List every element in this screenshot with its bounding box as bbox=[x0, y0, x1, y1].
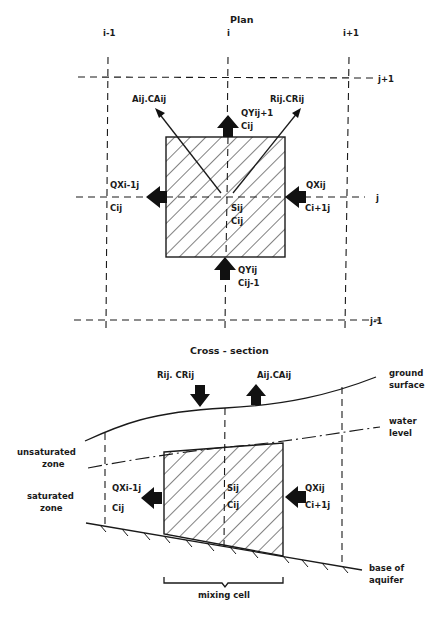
cross-arrow-left-out-icon bbox=[141, 487, 162, 509]
cross-section-title: Cross - section bbox=[190, 345, 269, 356]
ground-surface-label-1: ground bbox=[389, 368, 423, 378]
grid-column-i-minus-1 bbox=[106, 57, 108, 328]
plan-evap-label: Aij.CAij bbox=[132, 94, 166, 104]
mixing-cell-label: mixing cell bbox=[198, 590, 250, 600]
arrow-left-out-icon bbox=[146, 186, 167, 208]
recharge-down-arrow-icon bbox=[190, 385, 210, 407]
mixing-cell-bracket bbox=[164, 577, 283, 587]
cross-arrow-left-in-icon bbox=[285, 486, 306, 508]
row-label-j-minus-1: j-1 bbox=[369, 316, 382, 326]
plan-qx-out-label: QXi-1j bbox=[110, 180, 139, 190]
saturated-zone-label-1: saturated bbox=[27, 491, 74, 501]
cross-section-view: Cross - section Rij. CRij bbox=[17, 345, 425, 600]
water-level-label-2: level bbox=[389, 428, 412, 438]
evaporation-arrowhead-icon bbox=[155, 108, 165, 118]
ground-surface-label-2: surface bbox=[389, 380, 425, 390]
evaporation-up-arrow-icon bbox=[246, 384, 266, 405]
column-label-i: i bbox=[227, 28, 230, 38]
plan-qx-in-label: QXij bbox=[306, 180, 326, 190]
recharge-arrowhead-icon bbox=[292, 108, 301, 118]
unsaturated-zone-label-2: zone bbox=[42, 459, 65, 469]
arrow-up-out-icon bbox=[217, 115, 239, 137]
cross-qx-in-label: QXij bbox=[305, 483, 325, 493]
water-level-label-1: water bbox=[389, 416, 417, 426]
aquifer-base-label-2: aquifer bbox=[369, 575, 404, 585]
row-label-j-plus-1: j+1 bbox=[377, 74, 394, 84]
plan-qy-out-label: QYij+1 bbox=[241, 108, 273, 118]
cross-source-conc: Cij bbox=[227, 500, 239, 510]
plan-view: Plan i-1 i i+1 j+1 j j-1 Aij.CAij Rij.CR… bbox=[74, 14, 394, 328]
arrow-left-in-icon bbox=[285, 186, 306, 208]
arrow-up-in-icon bbox=[214, 257, 236, 280]
plan-qx-out-conc: Cij bbox=[110, 203, 122, 213]
cross-recharge-label: Rij. CRij bbox=[157, 370, 194, 380]
cross-qx-out-label: QXi-1j bbox=[112, 483, 141, 493]
grid-column-i-plus-1 bbox=[345, 57, 349, 328]
row-label-j: j bbox=[375, 193, 379, 203]
plan-qy-in-conc: Cij-1 bbox=[238, 278, 260, 288]
cross-qx-in-conc: Ci+1j bbox=[305, 500, 330, 510]
plan-source-label: Sij bbox=[231, 203, 243, 213]
cross-source-label: Sij bbox=[227, 483, 239, 493]
plan-source-conc: Cij bbox=[231, 216, 243, 226]
cross-evap-label: Aij.CAij bbox=[257, 370, 291, 380]
aquifer-base-label-1: base of bbox=[369, 563, 404, 573]
unsaturated-zone-label-1: unsaturated bbox=[17, 447, 76, 457]
plan-qy-in-label: QYij bbox=[238, 265, 257, 275]
saturated-zone-label-2: zone bbox=[40, 503, 63, 513]
column-label-i-minus-1: i-1 bbox=[103, 28, 115, 38]
plan-qy-out-conc: Cij bbox=[241, 121, 253, 131]
grid-row-j-plus-1 bbox=[78, 77, 375, 78]
plan-recharge-label: Rij.CRij bbox=[270, 94, 304, 104]
cross-qx-out-conc: Cij bbox=[112, 503, 124, 513]
plan-title: Plan bbox=[230, 14, 254, 25]
ground-surface-line bbox=[85, 377, 376, 441]
column-label-i-plus-1: i+1 bbox=[343, 28, 359, 38]
mixing-cell-diagram: Plan i-1 i i+1 j+1 j j-1 Aij.CAij Rij.CR… bbox=[0, 0, 442, 618]
plan-qx-in-conc: Ci+1j bbox=[305, 203, 330, 213]
